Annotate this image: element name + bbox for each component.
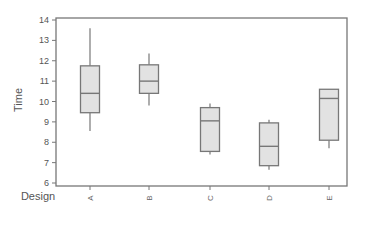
- box-A: [81, 28, 100, 131]
- box-plot-chart: 67891011121314 ABCDE Time Design: [0, 0, 380, 240]
- x-axis-title: Design: [21, 190, 55, 202]
- x-category-label: D: [265, 195, 274, 201]
- box-D: [260, 120, 279, 170]
- box-B: [140, 54, 159, 106]
- box-E: [320, 89, 339, 148]
- x-category-label: C: [206, 195, 215, 201]
- x-category-label: A: [86, 195, 95, 201]
- iqr-box: [81, 66, 100, 113]
- y-tick-label: 6: [44, 178, 49, 188]
- iqr-box: [201, 108, 220, 152]
- x-axis: ABCDE: [86, 186, 334, 201]
- iqr-box: [140, 65, 159, 94]
- y-tick-label: 14: [39, 15, 49, 25]
- y-tick-label: 13: [39, 35, 49, 45]
- y-tick-label: 7: [44, 158, 49, 168]
- boxes: [81, 28, 339, 170]
- y-tick-label: 12: [39, 56, 49, 66]
- x-category-label: E: [325, 195, 334, 200]
- y-axis-title: Time: [12, 88, 24, 112]
- y-tick-label: 9: [44, 117, 49, 127]
- box-C: [201, 104, 220, 155]
- y-tick-label: 10: [39, 97, 49, 107]
- y-tick-label: 11: [40, 76, 49, 86]
- iqr-box: [320, 89, 339, 140]
- iqr-box: [260, 123, 279, 166]
- y-tick-label: 8: [44, 137, 49, 147]
- x-category-label: B: [145, 195, 154, 200]
- y-axis: 67891011121314: [39, 15, 56, 188]
